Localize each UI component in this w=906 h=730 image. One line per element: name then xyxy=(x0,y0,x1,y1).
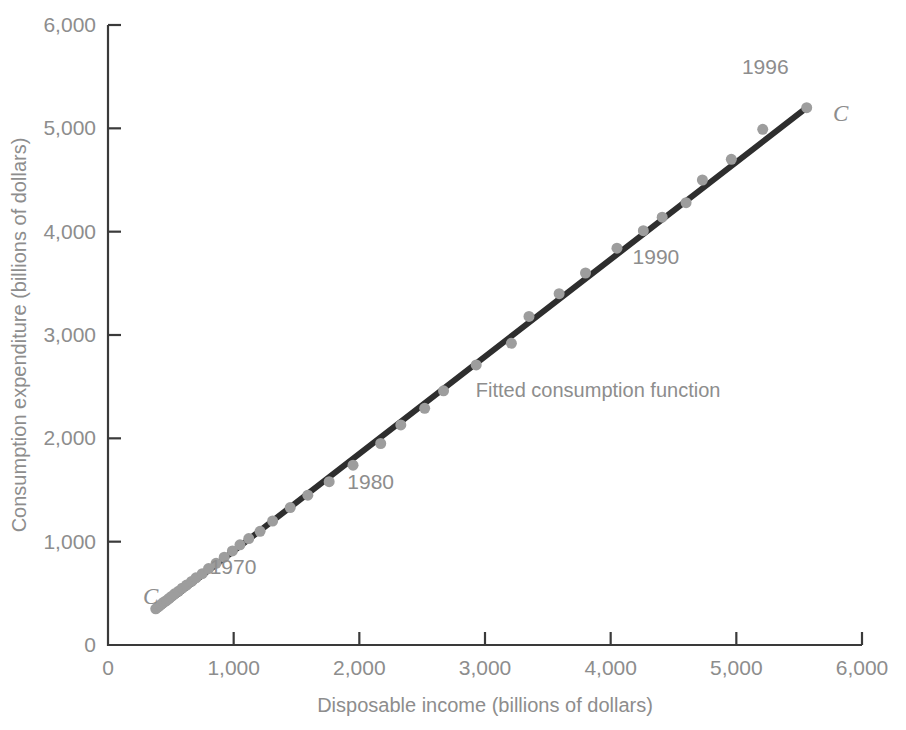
y-tick-labels: 01,0002,0003,0004,0005,0006,000 xyxy=(43,13,96,656)
data-point xyxy=(471,359,482,370)
x-tick-label: 3,000 xyxy=(459,656,512,679)
x-tick-label: 2,000 xyxy=(333,656,386,679)
y-tick-label: 4,000 xyxy=(43,220,96,243)
y-tick-label: 3,000 xyxy=(43,323,96,346)
data-point xyxy=(506,338,517,349)
x-axis-title: Disposable income (billions of dollars) xyxy=(317,694,653,716)
chart-annotations: 1970198019901996Fitted consumption funct… xyxy=(143,55,849,609)
y-tick-label: 5,000 xyxy=(43,116,96,139)
data-point xyxy=(419,403,430,414)
data-point xyxy=(302,490,313,501)
x-tick-label: 6,000 xyxy=(836,656,889,679)
x-tick-label: 4,000 xyxy=(584,656,637,679)
year-label-1990: 1990 xyxy=(633,245,680,268)
data-point xyxy=(757,124,768,135)
data-point xyxy=(726,154,737,165)
consumption-function-chart: 01,0002,0003,0004,0005,0006,000 01,0002,… xyxy=(0,0,906,730)
data-point xyxy=(801,102,812,113)
x-tick-label: 5,000 xyxy=(710,656,763,679)
x-tick-labels: 01,0002,0003,0004,0005,0006,000 xyxy=(102,656,888,679)
chart-canvas: 01,0002,0003,0004,0005,0006,000 01,0002,… xyxy=(0,0,906,730)
axes xyxy=(108,25,862,645)
x-tick-label: 1,000 xyxy=(207,656,260,679)
x-tick-label: 0 xyxy=(102,656,114,679)
data-point xyxy=(681,197,692,208)
fitted-function-label: Fitted consumption function xyxy=(476,379,721,401)
data-point xyxy=(438,385,449,396)
data-point xyxy=(243,533,254,544)
year-label-1970: 1970 xyxy=(210,555,257,578)
data-point xyxy=(554,288,565,299)
data-point xyxy=(255,526,266,537)
tick-marks xyxy=(108,25,862,645)
year-label-1996: 1996 xyxy=(742,55,789,78)
data-point xyxy=(267,516,278,527)
y-tick-label: 1,000 xyxy=(43,530,96,553)
data-point xyxy=(348,460,359,471)
data-point xyxy=(285,502,296,513)
data-point xyxy=(395,419,406,430)
curve-label-c-lower: C xyxy=(143,584,159,609)
data-point xyxy=(375,438,386,449)
y-tick-label: 6,000 xyxy=(43,13,96,36)
curve-label-c-upper: C xyxy=(833,101,849,126)
data-point xyxy=(697,175,708,186)
y-axis-title: Consumption expenditure (billions of dol… xyxy=(8,138,30,533)
data-point xyxy=(580,268,591,279)
data-point xyxy=(324,476,335,487)
data-point xyxy=(611,243,622,254)
year-label-1980: 1980 xyxy=(347,470,394,493)
data-point xyxy=(523,311,534,322)
data-point xyxy=(657,212,668,223)
data-point xyxy=(638,225,649,236)
y-tick-label: 2,000 xyxy=(43,426,96,449)
y-tick-label: 0 xyxy=(84,633,96,656)
